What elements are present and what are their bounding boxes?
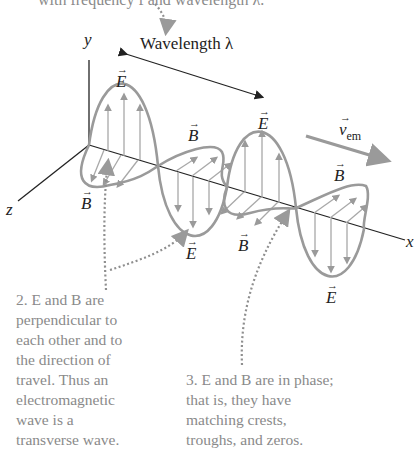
dotted-pointer-2b <box>110 232 186 270</box>
dotted-pointer-top <box>155 4 166 32</box>
wavelength-arrow <box>126 54 262 97</box>
velocity-label: → vem <box>339 120 361 140</box>
b-label-4: →B <box>334 166 344 186</box>
z-axis-label: z <box>6 200 13 220</box>
z-axis <box>18 145 89 201</box>
b-label-1: →B <box>81 194 91 214</box>
x-axis <box>89 145 405 240</box>
e-label-trough-2: →E <box>326 288 336 308</box>
caption-note-2: 2. E and B are perpendicular to each oth… <box>16 290 122 450</box>
x-axis-label: x <box>406 232 414 252</box>
b-label-2: →B <box>188 126 198 146</box>
b-label-3: →B <box>238 236 248 256</box>
e-label-trough-1: →E <box>186 244 196 264</box>
e-label-crest-1: →E <box>116 72 126 92</box>
wavelength-label: Wavelength λ <box>140 34 233 54</box>
e-label-crest-2: →E <box>258 114 268 134</box>
caption-note-3: 3. E and B are in phase; that is, they h… <box>186 370 334 450</box>
y-axis-label: y <box>84 30 92 50</box>
